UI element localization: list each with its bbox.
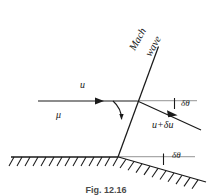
wall-downstream-segment <box>119 157 207 182</box>
mach-angle-arc <box>113 101 122 119</box>
mach-angle-label: μ <box>56 110 61 120</box>
mach-wave-label: Mach wave <box>131 2 193 52</box>
delta-theta-upper-label: δθ <box>181 99 190 108</box>
figure-caption: Fig. 12.16 <box>0 185 212 196</box>
downstream-flow-arrowhead <box>167 110 178 117</box>
figure-mach-wave-diagram: Mach wave u μ δθ u+δu δθ Fig. 12.16 <box>0 0 212 196</box>
upstream-velocity-label: u <box>80 80 85 90</box>
downstream-velocity-label: u+δu <box>152 120 173 130</box>
upstream-flow-arrowhead <box>95 98 104 105</box>
delta-theta-lower-label: δθ <box>172 151 181 160</box>
wall-hatching-upstream <box>9 157 118 166</box>
